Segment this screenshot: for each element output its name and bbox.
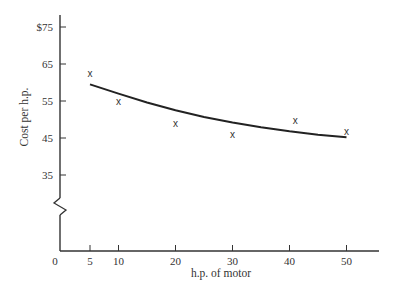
data-point-x-marker: x <box>88 68 93 79</box>
y-tick-label: 55 <box>42 95 54 107</box>
x-tick-label: 20 <box>170 255 182 267</box>
data-markers: xxxxxx <box>88 68 350 140</box>
data-point-x-marker: x <box>173 118 178 129</box>
y-axis-title: Cost per h.p. <box>18 87 31 146</box>
x-tick-label: 40 <box>284 255 296 267</box>
x-tick-label: 0 <box>52 255 58 267</box>
data-point-x-marker: x <box>293 115 298 126</box>
y-tick-label: 65 <box>42 58 54 70</box>
y-tick-label: 35 <box>42 169 54 181</box>
x-tick-label: 30 <box>227 255 239 267</box>
y-tick-label: $75 <box>37 21 54 33</box>
fitted-curve-line <box>90 84 347 137</box>
x-axis-title: h.p. of motor <box>191 267 251 280</box>
data-point-x-marker: x <box>116 96 121 107</box>
x-tick-label: 50 <box>341 255 353 267</box>
data-point-x-marker: x <box>230 129 235 140</box>
x-tick-label: 5 <box>87 255 93 267</box>
x-axis: 051020304050 <box>52 245 379 267</box>
axis-break-icon <box>54 198 66 215</box>
data-point-x-marker: x <box>344 126 349 137</box>
y-tick-label: 45 <box>42 132 54 144</box>
x-tick-label: 10 <box>113 255 125 267</box>
cost-per-hp-chart: 35455565$75 051020304050 h.p. of motor C… <box>0 0 396 293</box>
y-axis: 35455565$75 <box>37 15 67 251</box>
